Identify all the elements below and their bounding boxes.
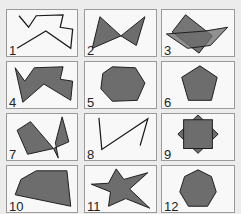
cell-number: 2 xyxy=(87,44,94,57)
cell-5: 5 xyxy=(84,61,157,109)
cell-1: 1 xyxy=(6,9,78,57)
cell-number: 5 xyxy=(87,96,94,109)
cell-number: 1 xyxy=(9,44,16,57)
cell-number: 4 xyxy=(9,96,16,109)
cell-number: 6 xyxy=(164,96,171,109)
cell-number: 12 xyxy=(164,200,178,213)
bowtie-icon xyxy=(85,10,156,56)
cell-7: 7 xyxy=(6,113,78,161)
cell-12: 12 xyxy=(161,165,235,213)
cell-2: 2 xyxy=(84,9,157,57)
cell-number: 7 xyxy=(9,148,16,161)
cell-8: 8 xyxy=(84,113,157,161)
open-polyline-icon xyxy=(7,10,77,56)
cell-4: 4 xyxy=(6,61,78,109)
cell-number: 9 xyxy=(164,148,171,161)
open-polyline-icon xyxy=(85,114,156,160)
cell-number: 8 xyxy=(87,148,94,161)
cell-9: 9 xyxy=(161,113,235,161)
cell-number: 3 xyxy=(164,44,171,57)
concave-polygon-icon xyxy=(7,62,77,108)
cell-11: 11 xyxy=(84,165,157,213)
cell-number: 10 xyxy=(9,200,23,213)
shape-grid: 1 2 3 4 5 6 7 xyxy=(0,0,241,214)
heptagon-icon xyxy=(85,62,156,108)
squares-icon xyxy=(162,114,234,160)
overlapping-parallelograms-icon xyxy=(162,10,234,56)
self-intersecting-polygon-icon xyxy=(7,114,77,160)
cell-6: 6 xyxy=(161,61,235,109)
cell-10: 10 xyxy=(6,165,78,213)
cell-number: 11 xyxy=(87,200,101,213)
pentagon-icon xyxy=(162,62,234,108)
cell-3: 3 xyxy=(161,9,235,57)
